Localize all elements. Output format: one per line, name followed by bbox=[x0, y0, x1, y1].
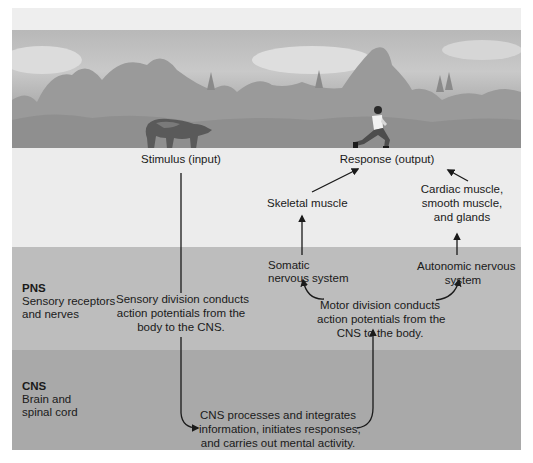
stimulus-label: Stimulus (input) bbox=[135, 152, 227, 166]
sensory-line-3: body to the CNS. bbox=[116, 320, 246, 334]
cns-process-line-2: information, initiates responses, bbox=[199, 422, 357, 436]
pns-section-label: PNS Sensory receptors and nerves bbox=[22, 282, 115, 321]
autonomic-nervous-system-label: Autonomic nervous system bbox=[417, 259, 509, 287]
cns-section-label: CNS Brain and spinal cord bbox=[22, 380, 78, 419]
cns-title: CNS bbox=[22, 380, 78, 393]
response-label: Response (output) bbox=[332, 152, 442, 166]
cardiac-line-2: smooth muscle, bbox=[417, 196, 507, 210]
cns-subtitle-line-1: Brain and bbox=[22, 393, 78, 406]
sensory-line-1: Sensory division conducts bbox=[116, 292, 246, 306]
pns-title: PNS bbox=[22, 282, 115, 295]
cns-to-motor-arrow bbox=[357, 330, 373, 428]
somatic-line-1: Somatic bbox=[268, 259, 349, 272]
cns-process-line-3: and carries out mental activity. bbox=[199, 436, 357, 450]
cardiac-line-3: and glands bbox=[417, 210, 507, 224]
sensory-division-text: Sensory division conducts action potenti… bbox=[116, 292, 246, 334]
cns-process-text: CNS processes and integrates information… bbox=[199, 408, 357, 450]
cns-subtitle-line-2: spinal cord bbox=[22, 406, 78, 419]
diagram-panel: Stimulus (input) Response (output) Skele… bbox=[12, 8, 521, 450]
cns-process-line-1: CNS processes and integrates bbox=[199, 408, 357, 422]
sensory-line-2: action potentials from the bbox=[116, 306, 246, 320]
autonomic-line-2: system bbox=[417, 273, 509, 287]
pns-subtitle-line-1: Sensory receptors bbox=[22, 295, 115, 308]
skeletal-muscle-label: Skeletal muscle bbox=[267, 196, 347, 210]
somatic-line-2: nervous system bbox=[268, 272, 349, 285]
flow-arrows bbox=[12, 8, 521, 450]
motor-line-3: CNS to the body. bbox=[317, 326, 443, 340]
motor-line-2: action potentials from the bbox=[317, 312, 443, 326]
pns-subtitle-line-2: and nerves bbox=[22, 308, 115, 321]
somatic-nervous-system-label: Somatic nervous system bbox=[268, 259, 349, 285]
motor-division-text: Motor division conducts action potential… bbox=[317, 298, 443, 340]
autonomic-line-1: Autonomic nervous bbox=[417, 259, 509, 273]
sensory-to-cns-arrow bbox=[181, 337, 198, 428]
cardiac-line-1: Cardiac muscle, bbox=[417, 182, 507, 196]
motor-line-1: Motor division conducts bbox=[317, 298, 443, 312]
cardiac-smooth-glands-label: Cardiac muscle, smooth muscle, and gland… bbox=[417, 182, 507, 224]
skeletal-to-response-arrow bbox=[312, 169, 358, 192]
cardiac-to-response-arrow bbox=[448, 170, 468, 181]
